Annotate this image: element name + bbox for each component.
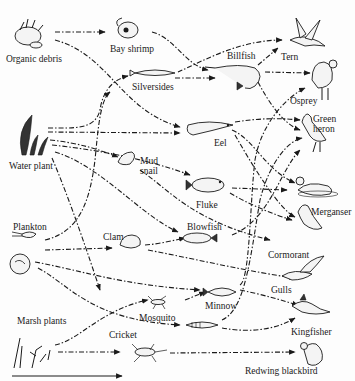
blowfish-icon bbox=[183, 233, 217, 243]
label-bay-shrimp: Bay shrimp bbox=[110, 44, 154, 54]
bay-shrimp-icon bbox=[117, 18, 138, 38]
energy-flow-arrows bbox=[35, 32, 310, 353]
tern-icon bbox=[290, 18, 325, 46]
kingfisher-icon bbox=[292, 294, 330, 314]
label-silversides: Silversides bbox=[132, 82, 174, 92]
edge-water-plant-to-blowfish bbox=[55, 152, 178, 232]
periphyton-icon bbox=[10, 254, 30, 274]
merganser-icon bbox=[296, 177, 338, 197]
plankton-icon bbox=[12, 232, 36, 238]
edge-small-fish-to-kingfisher bbox=[222, 318, 295, 330]
mud-snail-icon bbox=[118, 152, 135, 165]
label-green-heron: Greenheron bbox=[313, 114, 336, 134]
edge-eel-to-cormorant bbox=[235, 135, 295, 217]
label-kingfisher: Kingfisher bbox=[291, 327, 332, 337]
redwing-blackbird-icon bbox=[301, 343, 323, 366]
edge-bay-shrimp-to-billfish bbox=[152, 32, 208, 70]
edge-mosquito-to-minnow bbox=[185, 292, 205, 300]
label-plankton: Plankton bbox=[13, 222, 47, 232]
edge-plankton-to-clam bbox=[45, 248, 112, 250]
edge-eel-to-green-heron bbox=[235, 119, 300, 122]
label-osprey: Osprey bbox=[290, 96, 317, 106]
label-billfish: Billfish bbox=[227, 51, 256, 61]
eel-icon bbox=[187, 122, 233, 135]
label-water-plant: Water plant bbox=[9, 161, 53, 171]
organic-debris-icon bbox=[15, 19, 43, 48]
silversides-icon bbox=[130, 70, 175, 76]
label-blowfish: Blowfish bbox=[187, 222, 222, 232]
fluke-icon bbox=[186, 178, 224, 192]
edge-water-plant-to-eel bbox=[48, 132, 180, 133]
small-fish-icon bbox=[186, 322, 218, 328]
osprey-icon bbox=[312, 60, 337, 100]
label-cricket: Cricket bbox=[109, 330, 137, 340]
label-redwing-blackbird: Redwing blackbird bbox=[245, 366, 318, 376]
label-eel: Eel bbox=[214, 138, 227, 148]
edge-clam-to-blowfish bbox=[145, 238, 185, 245]
label-gulls: Gulls bbox=[271, 285, 292, 295]
label-fluke: Fluke bbox=[196, 200, 218, 210]
label-minnow: Minnow bbox=[205, 301, 237, 311]
label-mosquito: Mosquito bbox=[139, 313, 175, 323]
edge-periphyton-to-minnow bbox=[35, 262, 200, 290]
edge-billfish-to-tern bbox=[258, 48, 278, 65]
label-mud-snail: Mudsnail bbox=[140, 156, 158, 176]
label-marsh-plants: Marsh plants bbox=[17, 316, 66, 326]
label-merganser: Merganser bbox=[311, 207, 351, 217]
marsh-plants-icon bbox=[14, 338, 50, 368]
edge-cricket-to-redwing-blackbird bbox=[170, 352, 295, 353]
edge-billfish-to-green-heron bbox=[258, 82, 300, 130]
edge-water-plant-to-minnow bbox=[52, 158, 100, 290]
edge-fluke-to-merganser bbox=[232, 188, 287, 190]
water-plant-icon bbox=[20, 115, 48, 155]
edge-blowfish-to-green-heron bbox=[232, 150, 300, 235]
cricket-icon bbox=[132, 344, 167, 362]
edge-billfish-to-osprey bbox=[265, 72, 310, 73]
billfish-icon bbox=[205, 66, 260, 91]
label-cormorant: Cormorant bbox=[268, 250, 309, 260]
edge-plankton-to-silversides bbox=[45, 92, 110, 240]
label-tern: Tern bbox=[281, 52, 298, 62]
label-organic-debris: Organic debris bbox=[6, 54, 62, 64]
food-web-diagram: Organic debrisBay shrimpSilversidesBillf… bbox=[0, 0, 355, 381]
edge-eel-to-merganser bbox=[232, 130, 295, 183]
mosquito-icon bbox=[148, 296, 166, 309]
label-clam: Clam bbox=[103, 232, 124, 242]
minnow-icon bbox=[203, 288, 236, 296]
